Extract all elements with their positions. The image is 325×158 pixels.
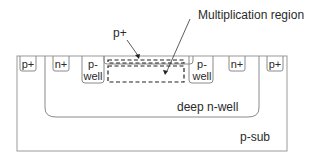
top-p-plus-label: p+	[113, 27, 127, 39]
left-p-well-label-1: p-	[82, 58, 104, 70]
deep-n-well-label: deep n-well	[177, 101, 238, 113]
device-cross-section	[0, 0, 325, 158]
p-plus-arrow-line	[127, 40, 139, 57]
left-p-plus-label: p+	[20, 58, 36, 70]
right-p-well-label-2: well	[191, 70, 213, 82]
right-n-plus-label: n+	[229, 58, 245, 70]
left-n-plus-label: n+	[53, 58, 69, 70]
multiplication-region-dashed-outline	[108, 66, 184, 82]
left-p-well-label-2: well	[82, 70, 104, 82]
p-plus-dashed-outline	[108, 60, 184, 63]
right-p-plus-label: p+	[267, 58, 283, 70]
p-sub-label: p-sub	[240, 131, 270, 143]
right-p-well-label-1: p-	[191, 58, 213, 70]
multiplication-region-label: Multiplication region	[198, 9, 304, 21]
